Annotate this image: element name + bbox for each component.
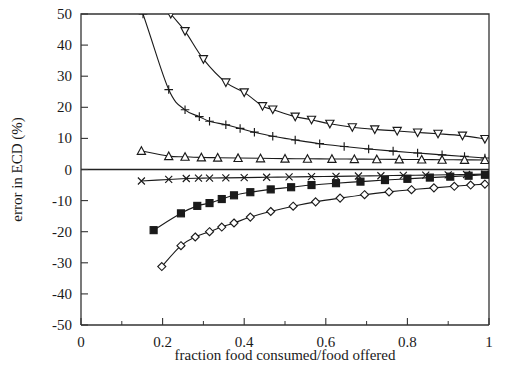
series-diamond-marker-13 — [407, 186, 415, 194]
series-triangle-down — [142, 0, 489, 143]
series-square-filled-marker-3 — [206, 200, 213, 207]
series-diamond-marker-6 — [246, 213, 254, 221]
series-plus-marker-0 — [139, 10, 148, 19]
series-square-filled-marker-8 — [288, 184, 295, 191]
series-diamond-marker-10 — [336, 194, 344, 202]
series-plus-line — [92, 0, 485, 158]
x-tick-label-0: 0 — [77, 334, 85, 350]
series-square-filled-marker-5 — [231, 192, 238, 199]
chart-figure: 50403020100-10-20-30-40-5000.20.40.60.81… — [0, 0, 509, 388]
series-square-filled-marker-15 — [447, 173, 454, 180]
y-tick-label-6: -10 — [52, 193, 72, 209]
series-plus-marker-5 — [222, 120, 231, 129]
series-square-filled-marker-17 — [481, 171, 488, 178]
series-plus-marker-1 — [164, 85, 173, 94]
series-plus-marker-8 — [268, 132, 277, 141]
series-square-filled-marker-16 — [465, 172, 472, 179]
series-diamond — [158, 180, 489, 270]
series-plus-marker-4 — [205, 117, 214, 126]
series-triangle-up — [137, 147, 489, 164]
series-triangle-down-marker-16 — [481, 136, 489, 144]
series-diamond-marker-14 — [430, 184, 438, 192]
y-tick-label-4: 10 — [57, 130, 72, 146]
series-triangle-down-marker-3 — [222, 79, 230, 87]
series-diamond-marker-17 — [481, 180, 489, 188]
y-tick-label-8: -30 — [52, 255, 72, 271]
series-square-filled-marker-6 — [247, 189, 254, 196]
series-square-filled-marker-11 — [357, 178, 364, 185]
y-tick-label-2: 30 — [57, 68, 72, 84]
series-square-filled-marker-1 — [177, 210, 184, 217]
y-tick-label-0: 50 — [57, 6, 72, 22]
x-tick-label-4: 0.8 — [398, 334, 417, 350]
series-diamond-marker-11 — [361, 191, 369, 199]
y-tick-label-7: -20 — [52, 224, 72, 240]
series-plus-marker-10 — [315, 139, 324, 148]
series-diamond-marker-5 — [230, 219, 238, 227]
series-triangle-down-marker-4 — [240, 89, 248, 97]
series-diamond-marker-7 — [267, 207, 275, 215]
y-tick-label-10: -50 — [52, 317, 72, 333]
series-plus-marker-9 — [291, 136, 300, 145]
series-square-filled-marker-9 — [308, 182, 315, 189]
series-diamond-marker-9 — [312, 198, 320, 206]
x-axis-title: fraction food consumed/food offered — [175, 347, 396, 363]
series-square-filled-marker-12 — [381, 177, 388, 184]
series-diamond-marker-12 — [385, 188, 393, 196]
y-tick-label-3: 20 — [57, 99, 72, 115]
series-diamond-marker-16 — [467, 181, 475, 189]
y-tick-label-1: 40 — [57, 37, 72, 53]
plot-area: 50403020100-10-20-30-40-5000.20.40.60.81… — [0, 0, 509, 388]
series-diamond-marker-15 — [450, 182, 458, 190]
series-group — [92, 0, 490, 271]
x-tick-label-1: 0.2 — [153, 334, 172, 350]
series-plus-marker-6 — [236, 124, 245, 133]
series-plus-marker-2 — [181, 105, 190, 114]
series-triangle-down-marker-5 — [258, 103, 266, 111]
series-diamond-marker-2 — [191, 233, 199, 241]
series-plus-marker-7 — [250, 128, 259, 137]
series-square-filled-marker-14 — [426, 174, 433, 181]
series-plus-marker-14 — [413, 149, 422, 158]
series-plus-marker-12 — [364, 145, 373, 154]
series-diamond-marker-4 — [218, 223, 226, 231]
series-square-filled-marker-4 — [218, 196, 225, 203]
y-tick-label-5: 0 — [65, 162, 73, 178]
series-diamond-marker-3 — [206, 228, 214, 236]
series-plus-marker-3 — [195, 112, 204, 121]
y-axis-title: error in ECD (%) — [9, 117, 26, 222]
series-diamond-marker-8 — [289, 202, 297, 210]
series-square-filled-marker-13 — [404, 175, 411, 182]
series-triangle-down-marker-1 — [181, 28, 189, 36]
series-triangle-down-marker-6 — [269, 106, 277, 114]
x-tick-label-5: 1 — [485, 334, 493, 350]
series-square-filled-marker-2 — [194, 202, 201, 209]
series-square-filled-marker-10 — [333, 180, 340, 187]
series-plus-marker-11 — [340, 142, 349, 151]
series-square-filled-marker-7 — [267, 186, 274, 193]
series-square-filled-marker-0 — [150, 227, 157, 234]
series-triangle-up-line — [141, 151, 485, 160]
series-plus-marker-13 — [389, 147, 398, 156]
series-plus — [92, 0, 490, 162]
y-tick-label-9: -40 — [52, 286, 72, 302]
series-diamond-line — [162, 184, 485, 266]
series-triangle-up-marker-0 — [137, 147, 145, 155]
